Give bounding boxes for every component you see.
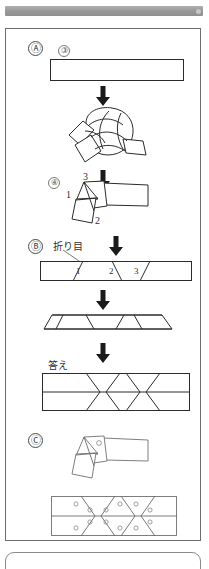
step-number-3: ③: [58, 45, 70, 57]
vertex-label-3: 3: [83, 171, 88, 182]
down-arrow-3: [108, 236, 124, 256]
figure-flat-paper-strip: [50, 59, 184, 81]
figure-folded-knot-opened: [64, 169, 152, 231]
figure-tied-knot: [61, 105, 153, 167]
vertex-label-2: 2: [95, 215, 100, 226]
scan-artifact-bar: [5, 6, 203, 16]
strip-fold-number-3: 3: [134, 266, 139, 276]
strip-fold-number-1: 1: [76, 266, 81, 276]
answer-label: 答え: [48, 357, 68, 372]
section-letter-a: Ⓐ: [28, 41, 43, 56]
strip-fold-number-2: 2: [109, 266, 114, 276]
down-arrow-1: [95, 86, 111, 106]
section-letter-b: Ⓑ: [28, 239, 43, 254]
page-root: Ⓐ ③: [0, 0, 209, 569]
figure-strip-with-fold-lines: [40, 261, 192, 281]
instruction-card: Ⓐ ③: [5, 28, 201, 541]
step-number-4: ④: [48, 177, 60, 189]
vertex-label-1: 1: [66, 189, 71, 200]
section-letter-c: Ⓒ: [28, 433, 43, 448]
down-arrow-5: [95, 343, 111, 363]
figure-flattened-zigzag-strip: [34, 313, 180, 333]
figure-answer-strip-with-creases: [42, 373, 190, 411]
next-page-panel: [5, 552, 201, 569]
figure-unfolded-strip-with-marks: [51, 496, 177, 536]
figure-folded-knot-with-marks: [64, 424, 152, 486]
down-arrow-4: [95, 290, 111, 310]
